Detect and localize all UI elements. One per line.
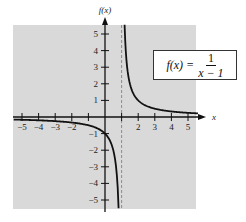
x-tick-label: −4: [34, 122, 44, 132]
chart-canvas: −5−4−3−22345−5−4−3−2−112345xf(x): [0, 0, 246, 222]
x-axis-arrow-icon: [198, 114, 206, 120]
y-tick-label: −3: [88, 162, 98, 172]
y-axis-label: f(x): [99, 5, 112, 15]
x-tick-label: 2: [136, 122, 141, 132]
y-tick-label: 3: [94, 62, 99, 72]
x-tick-label: 5: [186, 122, 191, 132]
y-tick-label: −1: [88, 129, 98, 139]
x-tick-label: −3: [50, 122, 60, 132]
y-tick-label: 1: [94, 95, 99, 105]
fraction-numerator: 1: [206, 52, 216, 66]
x-axis-label: x: [211, 112, 216, 122]
x-tick-label: −5: [17, 122, 27, 132]
x-tick-label: 3: [153, 122, 158, 132]
fraction: 1 x − 1: [198, 52, 223, 79]
y-tick-label: −4: [88, 178, 98, 188]
y-tick-label: 2: [94, 79, 99, 89]
y-tick-label: −5: [88, 195, 98, 205]
function-lhs: f(x) =: [166, 58, 194, 73]
y-axis-arrow-icon: [102, 17, 108, 25]
y-tick-label: 4: [94, 46, 99, 56]
y-tick-label: 5: [94, 29, 99, 39]
fraction-denominator: x − 1: [198, 66, 223, 79]
x-tick-label: 4: [169, 122, 174, 132]
function-label-box: f(x) = 1 x − 1: [153, 50, 237, 80]
y-tick-label: −2: [88, 145, 98, 155]
